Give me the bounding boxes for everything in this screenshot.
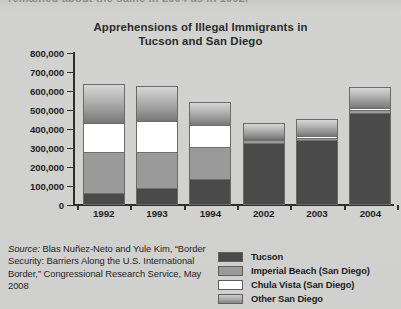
bar-2003[interactable] [296,119,338,205]
bar-1993[interactable] [136,86,178,205]
bar-segment-other[interactable] [137,87,177,121]
cut-off-body-text-value: remained about the same in 2004 as in 19… [8,0,248,4]
y-axis-tick-label: 500,000 [30,105,64,116]
legend-swatch-imperial [218,266,243,276]
bar-segment-tucson[interactable] [244,143,284,205]
y-axis-tick [67,91,73,92]
y-axis-tick-label: 400,000 [30,124,64,135]
y-axis-tick-label: 700,000 [30,67,64,78]
bar-segment-tucson[interactable] [190,179,230,205]
bar-1992[interactable] [83,84,125,205]
bar-segment-tucson[interactable] [137,188,177,205]
legend-item[interactable]: Chula Vista (San Diego) [218,278,398,291]
legend-item[interactable]: Other San Diego [218,292,398,305]
legend-label: Other San Diego [251,293,323,304]
x-axis-label-2002: 2002 [234,208,294,219]
bar-2002[interactable] [243,123,285,205]
y-axis-tick-label: 600,000 [30,86,64,97]
legend-label: Tucson [251,251,283,262]
bar-segment-tucson[interactable] [297,140,337,205]
y-axis-tick [67,72,73,73]
x-axis-label-2004: 2004 [340,208,400,219]
y-axis-tick [67,167,73,168]
bar-segment-other[interactable] [84,85,124,123]
legend-swatch-chula [218,280,243,290]
bar-1994[interactable] [189,102,231,205]
bar-segment-chula[interactable] [84,123,124,152]
y-axis-tick [67,129,73,130]
source-label: Source: [8,243,40,254]
bar-segment-tucson[interactable] [84,193,124,205]
y-axis-tick-label: 800,000 [30,48,64,59]
bar-segment-other[interactable] [297,120,337,136]
y-axis-tick-label: 200,000 [30,162,64,173]
y-axis-tick-label: 0 [59,200,64,211]
bar-segment-imperial[interactable] [190,147,230,179]
legend-swatch-other [218,294,243,304]
y-axis-tick [67,53,73,54]
bar-segment-other[interactable] [190,103,230,125]
y-axis-tick [67,110,73,111]
y-axis-tick [67,186,73,187]
x-axis-label-1994: 1994 [180,208,240,219]
bar-segment-tucson[interactable] [350,113,390,205]
source-note: Source: Blas Nuñez-Neto and Yule Kim, “B… [8,243,213,293]
legend-label: Imperial Beach (San Diego) [251,265,370,276]
legend-swatch-tucson [218,252,243,262]
bar-segment-chula[interactable] [137,121,177,151]
bar-segment-other[interactable] [244,124,284,138]
bar-segment-imperial[interactable] [137,152,177,188]
x-axis-label-1993: 1993 [127,208,187,219]
bar-segment-imperial[interactable] [84,152,124,193]
chart-title-line-2: Tucson and San Diego [0,35,401,49]
legend-item[interactable]: Imperial Beach (San Diego) [218,264,398,277]
cut-off-body-text: remained about the same in 2004 as in 19… [0,0,401,11]
x-axis-label-2003: 2003 [287,208,347,219]
chart-title-line-1: Apprehensions of Illegal Immigrants in [94,21,308,33]
bar-segment-chula[interactable] [190,125,230,147]
legend-item[interactable]: Tucson [218,250,398,263]
bar-segment-other[interactable] [350,88,390,108]
legend-label: Chula Vista (San Diego) [251,279,354,290]
bar-2004[interactable] [349,87,391,205]
chart-legend: TucsonImperial Beach (San Diego)Chula Vi… [218,250,398,306]
y-axis-tick-label: 100,000 [30,181,64,192]
chart-title: Apprehensions of Illegal Immigrants in T… [0,21,401,48]
plot-area: 0100,000200,000300,000400,000500,000600,… [73,53,393,205]
y-axis-tick [67,205,73,206]
x-axis-label-1992: 1992 [74,208,134,219]
y-axis-tick [67,148,73,149]
y-axis-tick-label: 300,000 [30,143,64,154]
